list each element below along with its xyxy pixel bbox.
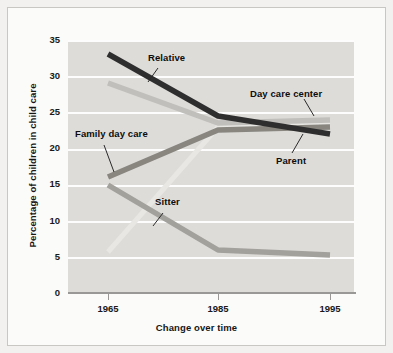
x-axis-title: Change over time xyxy=(0,322,393,333)
annotation-leader-lines xyxy=(0,0,393,353)
leader-line-sitter xyxy=(153,213,163,226)
series-label-relative: Relative xyxy=(148,52,185,63)
x-tick-label-1965: 1965 xyxy=(88,303,128,314)
series-label-family-day-care: Family day care xyxy=(75,128,148,139)
series-label-sitter: Sitter xyxy=(155,196,180,207)
x-axis-line xyxy=(68,292,356,294)
leader-line-family-day-care xyxy=(104,145,114,172)
x-tick-label-1985: 1985 xyxy=(198,303,238,314)
series-label-day-care-center: Day care center xyxy=(250,88,322,99)
leader-line-parent xyxy=(292,134,303,153)
line-chart-figure: Percentage of children in child care 35 … xyxy=(0,0,393,353)
leader-line-day-care-center xyxy=(304,99,314,116)
x-tick-label-1995: 1995 xyxy=(310,303,350,314)
scanned-page: Percentage of children in child care 35 … xyxy=(0,0,393,353)
x-tick-mark-1985 xyxy=(218,294,219,300)
x-tick-mark-1965 xyxy=(108,294,109,300)
leader-line-relative xyxy=(148,68,158,82)
x-tick-mark-1995 xyxy=(330,294,331,300)
series-label-parent: Parent xyxy=(276,155,306,166)
